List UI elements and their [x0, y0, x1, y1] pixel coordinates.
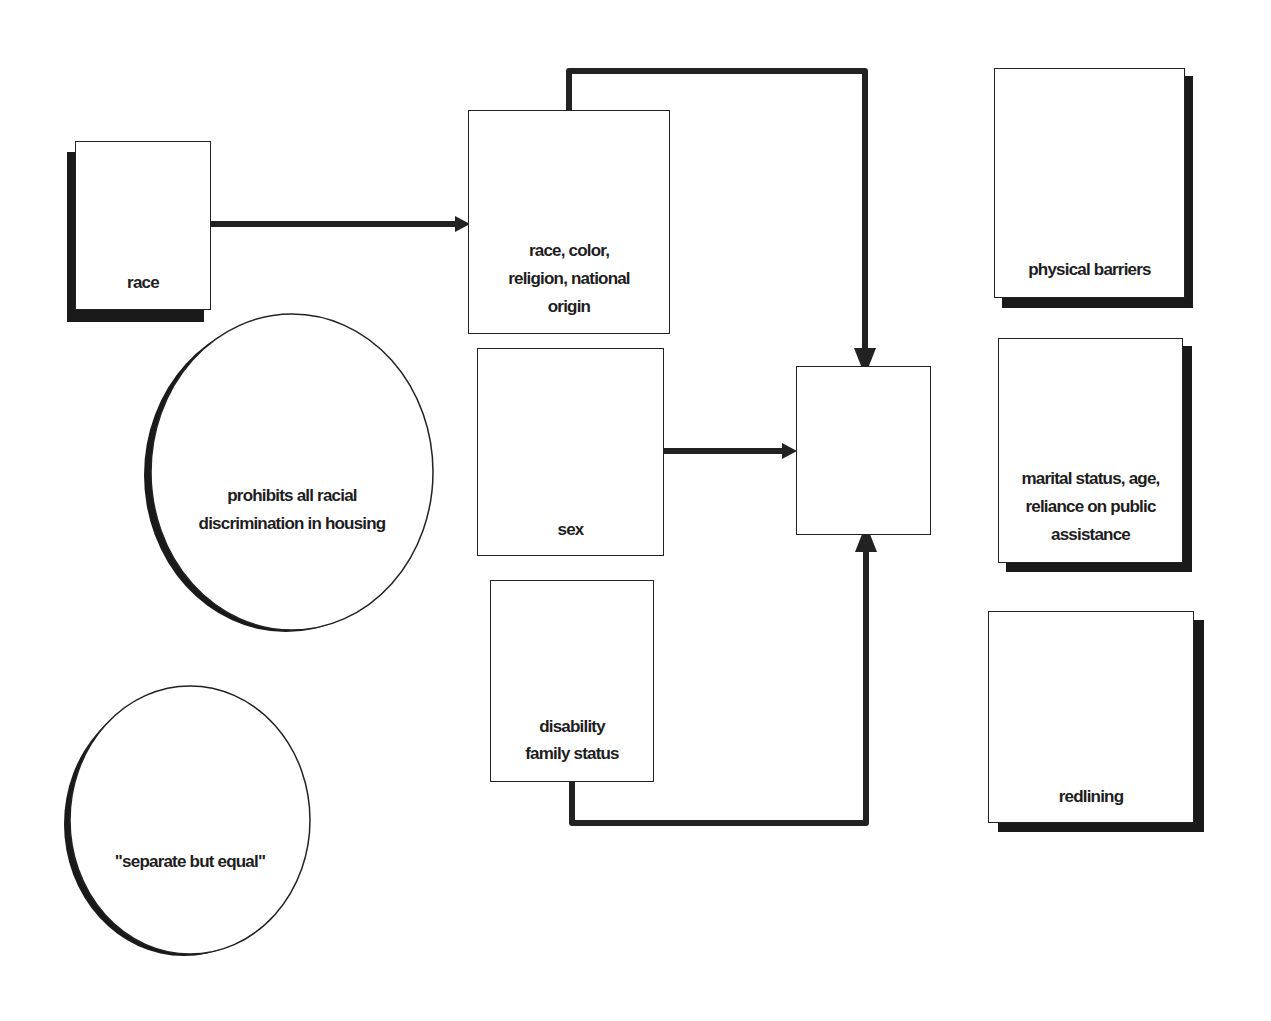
node-protected-classes[interactable]: race, color, religion, national origin — [468, 110, 670, 334]
ellipse-prohibits-racial-shape — [144, 314, 433, 632]
node-physical-barriers[interactable]: physical barriers — [994, 68, 1185, 298]
node-protected-classes-line-2: religion, national — [469, 266, 669, 292]
node-blank-target[interactable] — [796, 366, 931, 535]
node-protected-classes-line-1: race, color, — [469, 238, 669, 264]
node-marital-status-line-1: marital status, age, — [999, 466, 1182, 492]
node-sex-label: sex — [478, 517, 663, 543]
node-disability-line-1: disability — [491, 714, 653, 740]
node-redlining[interactable]: redlining — [988, 611, 1194, 823]
node-protected-classes-line-3: origin — [469, 294, 669, 320]
node-redlining-label: redlining — [989, 784, 1193, 810]
node-marital-status-line-2: reliance on public — [999, 494, 1182, 520]
ellipse-separate-equal-shape — [64, 686, 310, 956]
diagram-canvas: race race, color, religion, national ori… — [0, 0, 1271, 1021]
node-disability-line-2: family status — [491, 741, 653, 767]
arrow-sex-to-target — [664, 443, 797, 459]
node-marital-status[interactable]: marital status, age, reliance on public … — [998, 338, 1183, 563]
arrow-race-to-protected-classes — [211, 216, 470, 232]
ellipse-separate-equal-label: "separate but equal" — [70, 849, 310, 875]
ellipse-prohibits-racial-line-1: prohibits all racial — [150, 483, 434, 509]
node-disability-family[interactable]: disability family status — [490, 580, 654, 782]
node-sex[interactable]: sex — [477, 348, 664, 556]
node-race-label: race — [76, 270, 210, 296]
node-marital-status-line-3: assistance — [999, 522, 1182, 548]
node-physical-barriers-label: physical barriers — [995, 257, 1184, 283]
node-race[interactable]: race — [75, 141, 211, 310]
ellipse-prohibits-racial-line-2: discrimination in housing — [150, 511, 434, 537]
